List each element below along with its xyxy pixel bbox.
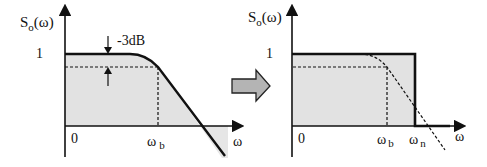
right-origin-label: 0: [298, 131, 305, 146]
filter-spectrum-diagram: So(ω) 1 -3dB 0 ωb ω So(ω) 1 0 ωb ωn: [0, 0, 487, 167]
right-x-axis-label: ω: [455, 129, 464, 144]
left-origin-label: 0: [71, 131, 78, 146]
attenuation-label: -3dB: [117, 33, 145, 48]
left-y-axis-label: So(ω): [20, 14, 54, 33]
left-x-axis-label: ω: [233, 134, 242, 149]
left-shaded-region: [65, 54, 200, 126]
right-omega-n-label: ωn: [409, 132, 426, 149]
right-y-axis-label: So(ω): [248, 9, 282, 28]
left-plot: So(ω) 1 -3dB 0 ωb ω: [20, 10, 242, 158]
right-y-tick-one: 1: [266, 46, 273, 61]
right-shaded-region: [293, 54, 415, 126]
right-omega-b-label: ωb: [377, 132, 394, 149]
left-omega-b-label: ωb: [147, 134, 165, 151]
left-y-tick-one: 1: [36, 46, 43, 61]
right-arrow-icon: [232, 70, 270, 101]
down-arrow-icon: [104, 36, 112, 54]
right-plot: So(ω) 1 0 ωb ωn ω: [248, 9, 464, 157]
